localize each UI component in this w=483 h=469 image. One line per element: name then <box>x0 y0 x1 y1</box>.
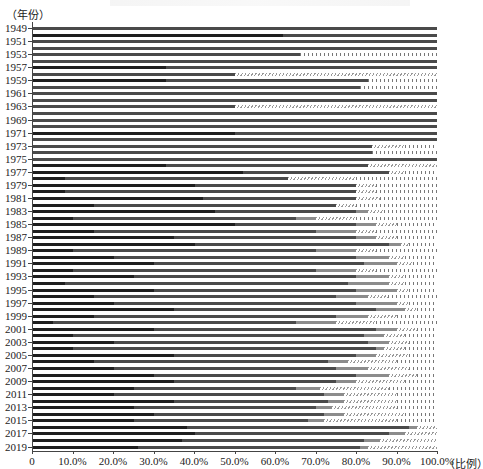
bar-segment-vertical-dash <box>300 53 437 56</box>
bar-segment-vertical-dash <box>397 400 437 403</box>
bar-segment-dark-gray <box>134 406 316 409</box>
bar <box>33 419 437 422</box>
bar <box>33 289 437 292</box>
bar-segment-diagonal-hatch <box>389 374 417 377</box>
bar-segment-gray <box>356 236 376 239</box>
bar-segment-vertical-dash <box>397 393 437 396</box>
bar-segment-dark-gray <box>166 164 368 167</box>
bar-segment-diagonal-hatch <box>368 295 388 298</box>
bar-segment-diagonal-hatch <box>235 105 437 108</box>
bar-segment-dark-gray <box>114 393 324 396</box>
y-tick-label: 1999 <box>0 311 27 322</box>
bar-segment-gray <box>356 223 376 226</box>
bar-segment-black <box>33 400 174 403</box>
bar-segment-diagonal-hatch <box>320 387 389 390</box>
bar-segment-black <box>33 249 73 252</box>
bar-segment-black <box>33 190 65 193</box>
y-tick-label: 1985 <box>0 219 27 230</box>
bar-segment-black <box>33 328 154 331</box>
y-tick-label: 2003 <box>0 337 27 348</box>
y-tick-label: 1995 <box>0 285 27 296</box>
bar-segment-black <box>33 341 114 344</box>
bar-segment-gray <box>376 308 404 311</box>
bar-segment-diagonal-hatch <box>389 341 409 344</box>
bar-segment-dark-gray <box>195 243 389 246</box>
bar <box>33 295 437 298</box>
bar-segment-dark-gray <box>174 354 356 357</box>
bar-segment-vertical-dash <box>397 315 437 318</box>
bar-segment-dark-gray <box>73 217 295 220</box>
bar-segment-dark-gray <box>134 419 308 422</box>
bar-segment-dark-gray <box>154 413 324 416</box>
x-tick <box>113 451 114 454</box>
bar <box>33 367 437 370</box>
bar-segment-black <box>33 164 166 167</box>
bar-segment-black <box>33 243 195 246</box>
x-tick <box>73 451 74 454</box>
y-tick-label: 2009 <box>0 376 27 387</box>
bar-segment-diagonal-hatch <box>397 262 413 265</box>
bar-segment-gray <box>324 413 344 416</box>
bar <box>33 190 437 193</box>
bar-segment-gray <box>348 282 388 285</box>
bar-segment-gray <box>356 354 376 357</box>
y-tick-label: 2013 <box>0 402 27 413</box>
bar-segment-dark-gray <box>33 112 437 115</box>
x-tick-label: 20.0% <box>99 455 127 467</box>
y-tick-label: 1987 <box>0 232 27 243</box>
bar-segment-black <box>33 406 134 409</box>
bar <box>33 243 437 246</box>
bar-segment-dark-gray <box>114 302 356 305</box>
bar-segment-dark-gray <box>215 210 356 213</box>
y-axis-unit-label: （年份） <box>6 6 50 22</box>
bar <box>33 387 437 390</box>
bar-segment-gray <box>296 217 316 220</box>
bar-segment-dark-gray <box>65 190 356 193</box>
bar-segment-diagonal-hatch <box>356 230 376 233</box>
y-tick-label: 1961 <box>0 88 27 99</box>
y-tick-label: 1951 <box>0 36 27 47</box>
bar-segment-vertical-dash <box>380 197 437 200</box>
bar-segment-gray <box>389 432 405 435</box>
bar-segment-vertical-dash <box>405 282 437 285</box>
bar-segment-dark-gray <box>65 282 348 285</box>
bar-segment-gray <box>324 393 344 396</box>
bar-segment-gray <box>296 321 336 324</box>
bar <box>33 79 437 82</box>
bar-segment-diagonal-hatch <box>405 432 437 435</box>
bar <box>33 86 437 89</box>
bar-segment-gray <box>364 334 384 337</box>
bar <box>33 184 437 187</box>
bar <box>33 432 437 435</box>
x-tick <box>356 451 357 454</box>
bar-segment-diagonal-hatch <box>356 184 376 187</box>
bar <box>33 341 437 344</box>
bar <box>33 360 437 363</box>
bar-segment-dark-gray <box>195 184 357 187</box>
bar <box>33 40 437 43</box>
bar-segment-dark-gray <box>187 426 409 429</box>
x-tick <box>316 451 317 454</box>
bar-segment-dark-gray <box>94 230 316 233</box>
bar-segment-dark-gray <box>94 315 336 318</box>
bar-segment-vertical-dash <box>417 374 437 377</box>
bar-segment-diagonal-hatch <box>356 380 404 383</box>
bar-segment-black <box>33 380 174 383</box>
bar-segment-black <box>33 439 182 442</box>
bar <box>33 158 437 161</box>
bar-segment-diagonal-hatch <box>376 223 396 226</box>
bar <box>33 34 437 37</box>
bar-segment-dark-gray <box>73 249 315 252</box>
bar-segment-dark-gray <box>65 177 287 180</box>
bar-segment-diagonal-hatch <box>324 419 397 422</box>
bar-segment-dark-gray <box>114 341 369 344</box>
bar-segment-black <box>33 210 215 213</box>
bar-segment-diagonal-hatch <box>372 145 404 148</box>
x-tick-label: 50.0% <box>220 455 248 467</box>
bar-segment-dark-gray <box>243 171 388 174</box>
bar-segment-dark-gray <box>73 347 376 350</box>
bar-segment-gray <box>336 367 368 370</box>
bar-segment-gray <box>356 302 396 305</box>
y-tick-label: 2017 <box>0 428 27 439</box>
x-tick-label: 80.0% <box>342 455 370 467</box>
